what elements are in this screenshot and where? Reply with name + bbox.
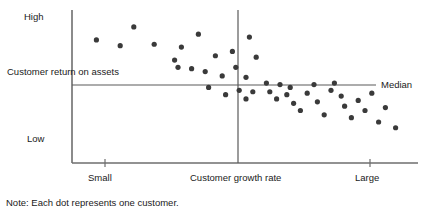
data-point <box>213 53 218 58</box>
data-points-group <box>94 24 398 130</box>
y-axis-tick-high: High <box>24 11 44 22</box>
data-point <box>393 125 398 130</box>
data-point <box>254 55 259 60</box>
data-point <box>152 42 157 47</box>
data-point <box>243 96 248 101</box>
data-point <box>284 92 289 97</box>
data-point <box>118 43 123 48</box>
data-point <box>339 93 344 98</box>
data-point <box>376 119 381 124</box>
scatter-plot-figure: High Customer return on assets Low Small… <box>0 0 422 217</box>
x-axis-tick-small: Small <box>88 172 112 183</box>
data-point <box>383 105 388 110</box>
data-point <box>322 112 327 117</box>
y-axis-tick-low: Low <box>27 133 44 144</box>
data-point <box>298 108 303 113</box>
data-point <box>237 88 242 93</box>
data-point <box>250 89 255 94</box>
figure-note: Note: Each dot represents one customer. <box>6 197 179 208</box>
data-point <box>315 99 320 104</box>
data-point <box>172 57 177 62</box>
data-point <box>369 91 374 96</box>
data-point <box>196 32 201 37</box>
data-point <box>267 89 272 94</box>
data-point <box>233 65 238 70</box>
data-point <box>94 37 99 42</box>
data-point <box>220 73 225 78</box>
median-line-label: Median <box>381 79 412 90</box>
x-axis-title: Customer growth rate <box>190 172 281 183</box>
x-axis-tick-large: Large <box>355 172 379 183</box>
data-point <box>206 85 211 90</box>
data-point <box>291 101 296 106</box>
data-point <box>203 69 208 74</box>
data-point <box>332 81 337 86</box>
data-point <box>131 24 136 29</box>
data-point <box>305 91 310 96</box>
y-axis-title: Customer return on assets <box>7 66 69 77</box>
axes-group <box>72 10 418 167</box>
data-point <box>356 98 361 103</box>
plot-canvas <box>0 0 422 217</box>
data-point <box>189 66 194 71</box>
data-point <box>349 115 354 120</box>
data-point <box>328 88 333 93</box>
data-point <box>243 75 248 80</box>
data-point <box>274 96 279 101</box>
data-point <box>175 65 180 70</box>
data-point <box>277 82 282 87</box>
data-point <box>264 81 269 86</box>
data-point <box>247 34 252 39</box>
data-point <box>288 85 293 90</box>
data-point <box>223 92 228 97</box>
data-point <box>179 45 184 50</box>
data-point <box>311 82 316 87</box>
data-point <box>342 104 347 109</box>
data-point <box>362 108 367 113</box>
data-point <box>230 49 235 54</box>
